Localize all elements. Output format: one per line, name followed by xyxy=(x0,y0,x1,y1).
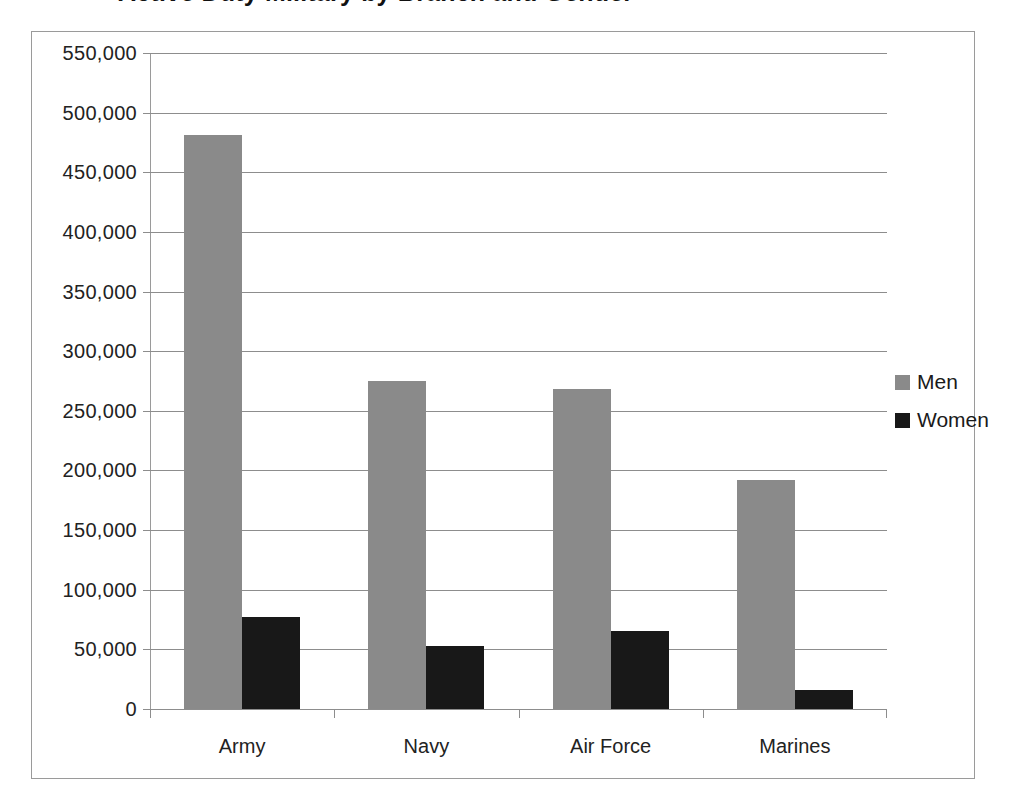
bars-wrap xyxy=(150,53,334,709)
y-axis-tick xyxy=(143,53,150,54)
bars-wrap xyxy=(703,53,887,709)
bar-air-force-men[interactable] xyxy=(553,389,611,709)
legend-item-women[interactable]: Women xyxy=(895,401,989,439)
bar-group: Air Force xyxy=(519,53,703,709)
bar-army-men[interactable] xyxy=(184,135,242,709)
legend-label: Men xyxy=(917,370,958,394)
y-axis-tick-label: 350,000 xyxy=(63,280,137,303)
chart-title-fragment: Active Duty Military by Branch and Gende… xyxy=(0,0,1032,14)
y-axis-tick-label: 550,000 xyxy=(63,42,137,65)
y-axis-tick xyxy=(143,172,150,173)
chart-title-text: Active Duty Military by Branch and Gende… xyxy=(118,0,633,7)
y-axis-tick xyxy=(143,530,150,531)
bar-group: Marines xyxy=(703,53,887,709)
bars-wrap xyxy=(334,53,518,709)
chart-legend: MenWomen xyxy=(895,363,989,439)
x-axis-tick xyxy=(703,709,704,718)
bar-marines-men[interactable] xyxy=(737,480,795,709)
plot-area: 550,000500,000450,000400,000350,000300,0… xyxy=(150,53,887,709)
y-axis-tick xyxy=(143,590,150,591)
y-axis-tick xyxy=(143,351,150,352)
y-axis-tick-label: 300,000 xyxy=(63,340,137,363)
x-axis-label-marines: Marines xyxy=(703,735,887,758)
legend-swatch-women xyxy=(895,413,910,428)
x-axis-tick xyxy=(334,709,335,718)
bar-group: Army xyxy=(150,53,334,709)
y-axis-tick-label: 100,000 xyxy=(63,578,137,601)
bar-navy-women[interactable] xyxy=(426,646,484,709)
bar-navy-men[interactable] xyxy=(368,381,426,709)
legend-swatch-men xyxy=(895,375,910,390)
x-axis-tick xyxy=(886,709,887,718)
x-axis-tick xyxy=(519,709,520,718)
x-axis-label-navy: Navy xyxy=(334,735,518,758)
legend-item-men[interactable]: Men xyxy=(895,363,989,401)
y-axis-tick xyxy=(143,411,150,412)
y-axis-tick-label: 0 xyxy=(126,698,137,721)
y-axis-tick xyxy=(143,709,150,710)
y-axis-tick xyxy=(143,470,150,471)
chart-frame: 550,000500,000450,000400,000350,000300,0… xyxy=(31,31,975,779)
y-axis-tick-label: 50,000 xyxy=(74,638,137,661)
x-axis-label-army: Army xyxy=(150,735,334,758)
bars-wrap xyxy=(519,53,703,709)
y-axis-tick-label: 200,000 xyxy=(63,459,137,482)
bar-group: Navy xyxy=(334,53,518,709)
y-axis-tick xyxy=(143,649,150,650)
y-axis-tick-label: 450,000 xyxy=(63,161,137,184)
bar-air-force-women[interactable] xyxy=(611,631,669,709)
y-axis-tick-label: 250,000 xyxy=(63,399,137,422)
y-axis-tick xyxy=(143,113,150,114)
y-axis-tick-label: 400,000 xyxy=(63,220,137,243)
x-axis-tick xyxy=(150,709,151,718)
bar-marines-women[interactable] xyxy=(795,690,853,709)
legend-label: Women xyxy=(917,408,989,432)
y-axis-tick xyxy=(143,292,150,293)
y-axis-tick-label: 150,000 xyxy=(63,519,137,542)
y-axis-tick-label: 500,000 xyxy=(63,101,137,124)
bar-army-women[interactable] xyxy=(242,617,300,709)
x-axis-label-air-force: Air Force xyxy=(519,735,703,758)
y-axis-tick xyxy=(143,232,150,233)
